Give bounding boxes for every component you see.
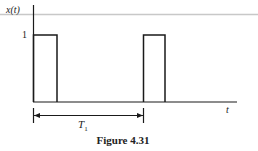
pulse-1 <box>34 35 58 102</box>
amplitude-tick-label: 1 <box>22 30 27 40</box>
x-axis-label: t <box>226 105 229 115</box>
figure-caption: Figure 4.31 <box>0 134 246 146</box>
y-axis-label: x(t) <box>6 5 20 15</box>
period-label: T1 <box>78 119 88 133</box>
pulse-train-diagram <box>0 0 258 151</box>
pulse-2 <box>144 35 166 102</box>
arrowhead-left-icon <box>34 113 40 118</box>
period-label-subscript: 1 <box>84 125 88 133</box>
arrowhead-right-icon <box>137 113 143 118</box>
